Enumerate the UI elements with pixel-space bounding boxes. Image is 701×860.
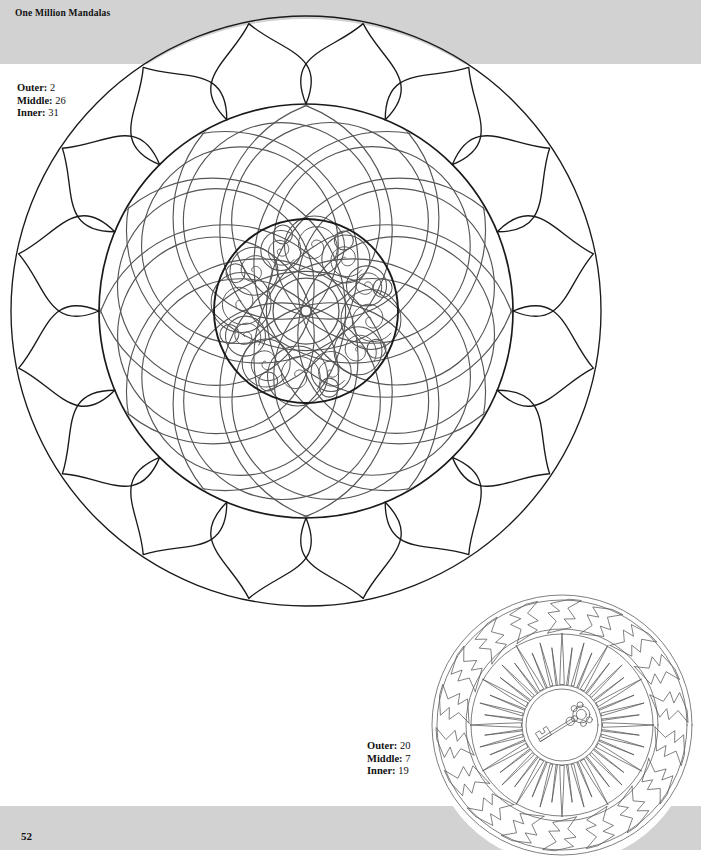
main-mandala-svg — [0, 14, 640, 654]
legend-middle-value: 26 — [55, 95, 66, 106]
wave-ribbon — [436, 728, 474, 759]
key-bow-scroll — [580, 720, 586, 726]
legend-middle-row: Middle: 26 — [17, 95, 66, 108]
key-shaft — [539, 719, 572, 740]
lotus-petal — [452, 136, 549, 232]
sunburst-ray — [603, 723, 654, 728]
key-bit — [535, 726, 551, 741]
legend-inner-label: Inner: — [17, 107, 46, 118]
key-bow-inner — [576, 709, 586, 719]
middle-boundary — [99, 104, 513, 518]
sunburst-ray — [586, 757, 609, 787]
sunburst-ray — [485, 730, 522, 736]
sunburst-ray — [571, 764, 584, 807]
swirl-arm-echo — [274, 279, 471, 476]
swirl-arm — [92, 131, 358, 397]
legend-outer-value: 2 — [50, 82, 55, 93]
thumb-mandala-svg — [423, 593, 701, 850]
ring-middle-swirl-crescents — [80, 85, 532, 537]
book-title: One Million Mandalas — [15, 8, 110, 18]
swirl-arm-echo — [274, 147, 471, 344]
legend-middle-label: Middle: — [367, 753, 403, 764]
swirl-arm-echo — [142, 147, 339, 344]
legend-middle-row: Middle: 7 — [367, 753, 410, 766]
wave-ribbon — [650, 692, 688, 723]
legend-outer-row: Outer: 2 — [17, 82, 66, 95]
swirl-arm — [92, 225, 358, 491]
sunburst-ray — [567, 648, 573, 685]
thumb-artwork — [432, 595, 692, 855]
swirl-arm — [126, 259, 392, 525]
wave-ribbon — [451, 646, 482, 691]
sunburst-ray — [470, 723, 521, 728]
main-mandala-legend: Outer: 2 Middle: 26 Inner: 31 — [17, 82, 66, 120]
wave-ribbon — [548, 599, 582, 633]
sunburst-ray — [586, 663, 609, 693]
key-bow-scroll — [577, 702, 583, 708]
thumb-mandala-legend: Outer: 20 Middle: 7 Inner: 19 — [367, 740, 410, 778]
legend-middle-label: Middle: — [17, 95, 53, 106]
lotus-petal — [131, 67, 227, 164]
sunburst-ray — [571, 643, 584, 686]
sunburst-ray — [485, 715, 522, 721]
sunburst-ray — [540, 643, 553, 686]
sunburst-ray — [560, 766, 565, 817]
legend-outer-row: Outer: 20 — [367, 740, 410, 753]
swirl-arm-echo — [142, 279, 339, 476]
key-icon — [535, 702, 592, 742]
legend-inner-value: 31 — [48, 107, 59, 118]
legend-outer-label: Outer: — [367, 740, 397, 751]
lotus-petal — [62, 390, 159, 486]
lotus-petal — [385, 457, 481, 554]
page-number: 52 — [21, 830, 32, 842]
sunburst-ray — [567, 766, 573, 803]
legend-inner-label: Inner: — [367, 765, 396, 776]
sunburst-ray — [560, 633, 565, 684]
sunburst-ray — [480, 703, 523, 716]
wave-ribbon — [642, 759, 673, 804]
sunburst-ray — [480, 734, 523, 747]
main-mandala-artwork — [0, 14, 640, 654]
sunburst-ray — [515, 757, 538, 787]
sunburst-ray — [515, 663, 538, 693]
sunburst-ray — [594, 749, 624, 772]
wave-ribbon — [543, 817, 577, 851]
sunburst-ray — [500, 678, 530, 701]
wave-ribbon — [655, 727, 685, 766]
thumb-mandala-artwork — [423, 593, 701, 850]
swirl-arm — [220, 259, 486, 525]
spiral-glyph — [319, 361, 345, 386]
sunburst-ray — [552, 766, 558, 803]
core-circle — [273, 278, 339, 344]
sunburst-ray — [601, 734, 644, 747]
legend-inner-value: 19 — [398, 765, 409, 776]
sunburst-ray — [603, 730, 640, 736]
key-bow — [573, 706, 590, 723]
legend-middle-value: 7 — [405, 753, 410, 764]
sunburst-ray — [594, 678, 624, 701]
swirl-arms — [80, 85, 532, 537]
spiral-glyph — [251, 351, 282, 381]
wave-ribbon — [439, 684, 469, 723]
legend-outer-label: Outer: — [17, 82, 47, 93]
legend-inner-row: Inner: 19 — [367, 765, 410, 778]
middle-boundary-circle — [99, 104, 513, 518]
legend-outer-value: 20 — [400, 740, 411, 751]
legend-inner-row: Inner: 31 — [17, 107, 66, 120]
sunburst-ray — [603, 715, 640, 721]
sunburst-ray — [500, 749, 530, 772]
sunburst-ray — [540, 764, 553, 807]
ring-inner-spiral-disc — [211, 216, 401, 406]
sunburst-ray — [552, 648, 558, 685]
sunburst-ray — [601, 703, 644, 716]
